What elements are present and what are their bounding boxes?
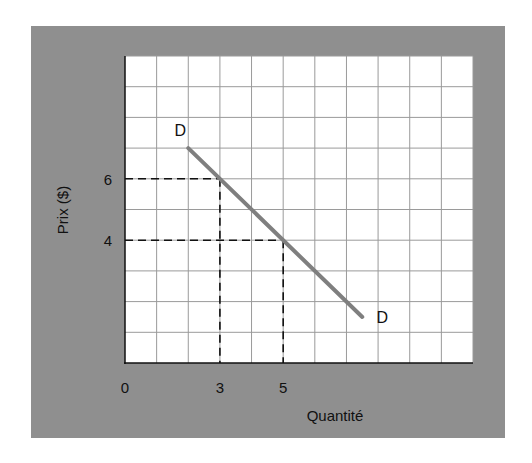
x-tick-labels: 035 — [121, 379, 288, 396]
y-tick-label: 6 — [104, 171, 112, 188]
y-tick-labels: 64 — [104, 171, 112, 249]
y-axis-label: Prix ($) — [54, 186, 71, 234]
x-tick-label: 3 — [216, 379, 224, 396]
y-tick-label: 4 — [104, 232, 112, 249]
demand-chart: D D 64 035 Quantité Prix ($) — [0, 0, 532, 463]
demand-end-label: D — [376, 309, 388, 326]
x-tick-label: 5 — [279, 379, 287, 396]
demand-start-label: D — [174, 122, 186, 139]
x-tick-label: 0 — [121, 379, 129, 396]
x-axis-label: Quantité — [307, 407, 364, 424]
